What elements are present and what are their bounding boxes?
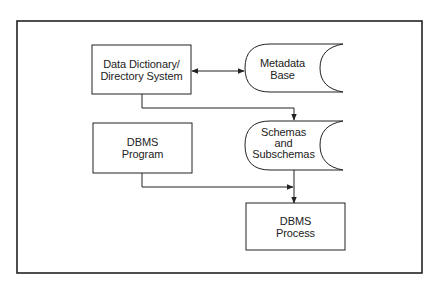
label-dbms-process: DBMS Process (246, 215, 345, 239)
label-data-dictionary: Data Dictionary/ Directory System (92, 58, 191, 82)
label-metadata-base: Metadata Base (245, 57, 320, 81)
edge-program-process (142, 173, 293, 187)
label-dbms-program: DBMS Program (93, 136, 192, 160)
label-schemas: Schemas and Subschemas (247, 127, 320, 160)
diagram-canvas (0, 0, 438, 288)
edge-dd-schemas (142, 94, 294, 120)
outer-frame (17, 21, 422, 273)
